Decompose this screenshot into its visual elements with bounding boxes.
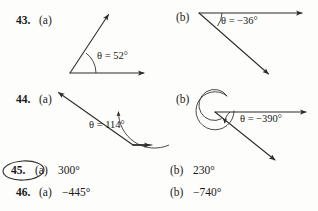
problem-number-43: 43.	[16, 15, 30, 27]
problem-45-part-b-label: (b)	[170, 165, 183, 177]
angle-diagrams-layer	[0, 0, 318, 211]
problem-45-part-b-value: 230°	[193, 165, 215, 177]
diagram-43a	[70, 15, 144, 74]
problem-44-part-a-label: (a)	[39, 94, 52, 106]
problem-46-part-a-value: −445°	[62, 187, 90, 199]
problem-44-part-b-label: (b)	[176, 94, 189, 106]
problem-43-part-b-label: (b)	[176, 12, 189, 24]
problem-number-45: 45.	[11, 165, 25, 177]
problem-number-44: 44.	[16, 94, 30, 106]
angle-label-43a: θ = 52°	[97, 51, 128, 62]
diagram-44b	[196, 89, 306, 160]
angle-label-44a: θ = 114°	[89, 120, 125, 131]
problem-45-part-a-label: (a)	[35, 165, 48, 177]
problem-46-part-b-label: (b)	[170, 187, 183, 199]
problem-46-part-a-label: (a)	[39, 187, 52, 199]
angle-label-44b: θ = −390°	[240, 114, 282, 125]
angle-label-43b: θ = −36°	[221, 16, 258, 27]
problem-43-part-a-label: (a)	[39, 15, 52, 27]
problem-number-46: 46.	[16, 187, 30, 199]
problem-45-part-a-value: 300°	[58, 165, 80, 177]
problem-46-part-b-value: −740°	[193, 187, 221, 199]
worksheet-page: 43. (a) θ = 52° (b) θ = −36° 44. (a) θ =…	[0, 0, 318, 211]
